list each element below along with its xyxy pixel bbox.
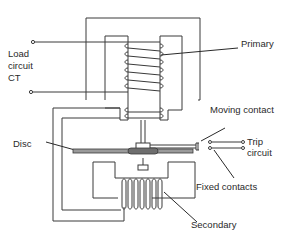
secondary-circuit-wires <box>53 108 124 221</box>
label-primary: Primary <box>241 38 274 50</box>
disc <box>73 148 193 154</box>
load-circuit-leads <box>29 40 128 93</box>
spindle <box>136 120 150 170</box>
label-fixed-contacts: Fixed contacts <box>196 181 257 193</box>
upper-magnet-core <box>86 18 200 120</box>
fixed-contacts <box>209 141 245 150</box>
label-load-circuit-ct: Load circuit CT <box>8 48 33 84</box>
label-moving-contact: Moving contact <box>210 104 274 116</box>
label-circuit: circuit <box>8 60 33 72</box>
label-secondary: Secondary <box>191 219 236 231</box>
label-ct: CT <box>8 72 33 84</box>
label-load: Load <box>8 48 33 60</box>
primary-coil <box>125 44 163 118</box>
label-disc: Disc <box>13 138 31 150</box>
induction-disc-relay-diagram <box>0 0 291 238</box>
secondary-coil <box>122 179 162 209</box>
label-trip-circuit: circuit <box>247 147 272 159</box>
leader-lines <box>46 48 238 222</box>
